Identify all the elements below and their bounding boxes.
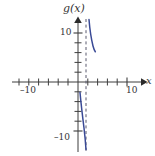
graph-figure: g(x) x 10 –10 10 –10 [0, 0, 155, 156]
plot-canvas [0, 0, 155, 156]
y-tick-label-10: 10 [60, 28, 71, 37]
y-axis-arrow-icon [74, 17, 82, 24]
x-axis-label: x [146, 76, 152, 86]
curve-upper-branch [89, 20, 95, 52]
x-tick-label-minus-10: –10 [20, 86, 36, 95]
y-tick-label-minus-10: –10 [54, 133, 70, 142]
x-tick-label-10: 10 [126, 86, 137, 95]
function-label: g(x) [63, 3, 85, 14]
